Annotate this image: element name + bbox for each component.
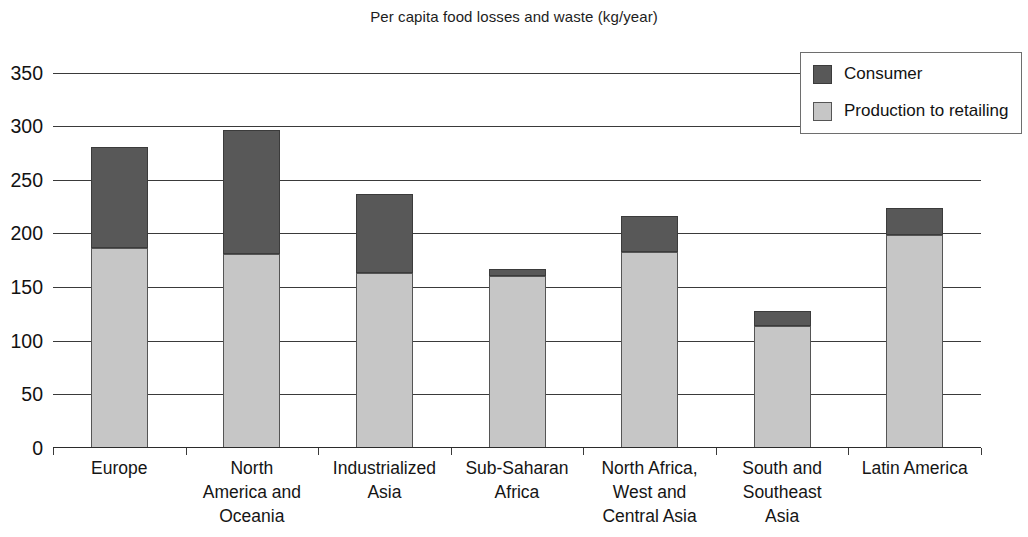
bar-sub-saharan-africa[interactable] bbox=[489, 73, 546, 449]
bar-segment-production-to-retailing[interactable] bbox=[356, 273, 413, 448]
x-axis-tick bbox=[451, 448, 452, 455]
bar-segment-production-to-retailing[interactable] bbox=[754, 326, 811, 448]
y-axis-tick-label: 150 bbox=[0, 276, 43, 299]
bar-segment-production-to-retailing[interactable] bbox=[489, 276, 546, 448]
bar-segment-production-to-retailing[interactable] bbox=[223, 254, 280, 448]
chart-title: Per capita food losses and waste (kg/yea… bbox=[0, 8, 1028, 25]
legend-label-consumer: Consumer bbox=[844, 64, 922, 84]
x-axis-label-line: West and bbox=[575, 480, 724, 504]
x-axis-label: Europe bbox=[45, 456, 194, 480]
bar-segment-consumer[interactable] bbox=[886, 208, 943, 235]
bar-north-africa-west-and-central-asia[interactable] bbox=[621, 73, 678, 449]
x-axis-label-line: Oceania bbox=[178, 504, 327, 528]
x-axis-tick bbox=[583, 448, 584, 455]
bar-industrialized-asia[interactable] bbox=[356, 73, 413, 449]
x-axis-label-line: America and bbox=[178, 480, 327, 504]
bar-segment-production-to-retailing[interactable] bbox=[621, 252, 678, 448]
y-axis-tick-label: 0 bbox=[0, 437, 43, 460]
bar-segment-consumer[interactable] bbox=[621, 216, 678, 251]
x-axis-label: Latin America bbox=[840, 456, 989, 480]
y-axis-tick-label: 350 bbox=[0, 61, 43, 84]
x-axis-label: South andSoutheastAsia bbox=[708, 456, 857, 528]
bar-north-america-and-oceania[interactable] bbox=[223, 73, 280, 449]
x-axis-line bbox=[53, 447, 981, 448]
x-axis-label-line: Central Asia bbox=[575, 504, 724, 528]
x-axis-label-line: Africa bbox=[443, 480, 592, 504]
y-axis-tick-label: 50 bbox=[0, 383, 43, 406]
bar-segment-production-to-retailing[interactable] bbox=[886, 235, 943, 448]
bar-segment-consumer[interactable] bbox=[356, 194, 413, 273]
y-axis-tick-label: 300 bbox=[0, 115, 43, 138]
x-axis-tick bbox=[318, 448, 319, 455]
legend-item-production-to-retailing: Production to retailing bbox=[813, 101, 1008, 121]
x-axis-label-line: South and bbox=[708, 456, 857, 480]
x-axis-label-line: Latin America bbox=[840, 456, 989, 480]
x-axis-label-line: Southeast bbox=[708, 480, 857, 504]
legend-swatch-production-icon bbox=[813, 102, 832, 121]
x-axis-label: North Africa,West andCentral Asia bbox=[575, 456, 724, 528]
x-axis-label-line: Industrialized bbox=[310, 456, 459, 480]
legend-swatch-consumer-icon bbox=[813, 65, 832, 84]
y-axis-tick-label: 100 bbox=[0, 329, 43, 352]
x-axis-label-line: Asia bbox=[310, 480, 459, 504]
x-axis-tick bbox=[981, 448, 982, 455]
bar-segment-consumer[interactable] bbox=[91, 147, 148, 249]
x-axis-tick bbox=[53, 448, 54, 455]
x-axis-tick bbox=[716, 448, 717, 455]
x-axis-label-line: Sub-Saharan bbox=[443, 456, 592, 480]
x-axis-label: Sub-SaharanAfrica bbox=[443, 456, 592, 504]
x-axis-tick bbox=[848, 448, 849, 455]
x-axis-tick bbox=[186, 448, 187, 455]
bar-segment-consumer[interactable] bbox=[489, 269, 546, 277]
bar-segment-production-to-retailing[interactable] bbox=[91, 248, 148, 448]
legend-item-consumer: Consumer bbox=[813, 64, 922, 84]
x-axis-label-line: North Africa, bbox=[575, 456, 724, 480]
bar-europe[interactable] bbox=[91, 73, 148, 449]
legend: Consumer Production to retailing bbox=[800, 52, 1022, 134]
legend-label-production-to-retailing: Production to retailing bbox=[844, 101, 1008, 121]
y-axis-tick-label: 200 bbox=[0, 222, 43, 245]
x-axis-label-line: Asia bbox=[708, 504, 857, 528]
bar-segment-consumer[interactable] bbox=[223, 130, 280, 253]
bar-chart: Per capita food losses and waste (kg/yea… bbox=[0, 0, 1028, 537]
x-axis-label: IndustrializedAsia bbox=[310, 456, 459, 504]
bar-segment-consumer[interactable] bbox=[754, 311, 811, 326]
x-axis-label-line: Europe bbox=[45, 456, 194, 480]
x-axis-label-line: North bbox=[178, 456, 327, 480]
x-axis-label: NorthAmerica andOceania bbox=[178, 456, 327, 528]
y-axis-tick-label: 250 bbox=[0, 168, 43, 191]
